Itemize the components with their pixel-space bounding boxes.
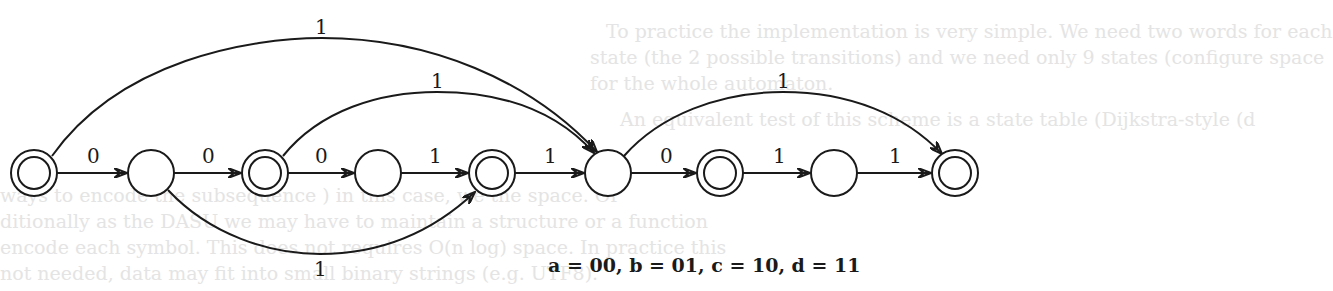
arc-q0-q5 <box>52 38 597 156</box>
curved-edges <box>52 38 942 254</box>
label-edge-q2-q3: 0 <box>315 144 328 168</box>
states <box>11 150 978 196</box>
label-arc-q2-q5: 1 <box>431 69 444 93</box>
state-q1 <box>128 150 174 196</box>
encoding-legend: a = 00, b = 01, c = 10, d = 11 <box>548 254 861 276</box>
label-edge-q0-q1: 0 <box>87 144 100 168</box>
state-q7 <box>811 150 857 196</box>
state-q3 <box>355 150 401 196</box>
label-edge-q5-q6: 0 <box>660 144 673 168</box>
label-edge-q7-q8: 1 <box>889 144 902 168</box>
label-edge-q1-q2: 0 <box>202 144 215 168</box>
label-arc-q1-q4: 1 <box>314 257 327 281</box>
arc-q1-q4 <box>168 190 475 254</box>
label-arc-q0-q5: 1 <box>315 15 328 39</box>
label-edge-q6-q7: 1 <box>773 144 786 168</box>
state-q5 <box>585 150 631 196</box>
label-edge-q4-q5: 1 <box>544 144 557 168</box>
label-edge-q3-q4: 1 <box>429 144 442 168</box>
label-arc-q5-q8: 1 <box>777 69 790 93</box>
